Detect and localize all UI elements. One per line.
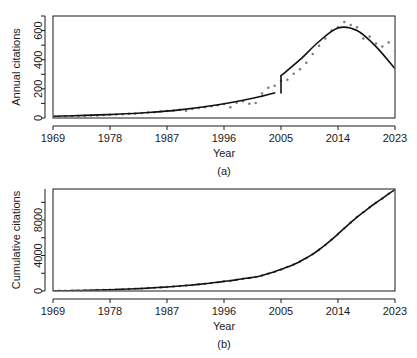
data-point: [375, 42, 378, 45]
x-tick-label: 1969: [41, 132, 65, 144]
data-layer: [52, 21, 397, 118]
x-tick-label: 1978: [98, 132, 122, 144]
panel-a-annual-citations: 19691978198719962005201420230200400600An…: [0, 0, 417, 179]
data-point: [299, 68, 302, 71]
data-point: [318, 44, 321, 47]
data-point: [387, 41, 390, 44]
data-point: [356, 26, 359, 29]
x-tick-label: 1978: [98, 305, 122, 317]
data-point: [273, 84, 276, 87]
plot-frame: [53, 16, 395, 118]
y-tick-label: 0: [32, 288, 44, 294]
x-tick-label: 2023: [383, 305, 407, 317]
x-tick-label: 1996: [212, 132, 236, 144]
cumulative-citations-plot: 1969197819871996200520142023040008000Cum…: [0, 179, 417, 358]
data-point: [229, 106, 232, 109]
data-point: [267, 86, 270, 89]
fitted-line-segment-2: [281, 27, 395, 76]
data-point: [248, 103, 251, 106]
x-tick-label: 1996: [212, 305, 236, 317]
x-tick-label: 2014: [326, 132, 350, 144]
x-tick-label: 1987: [155, 305, 179, 317]
x-axis-label: Year: [213, 147, 236, 159]
plot-frame: [53, 189, 395, 291]
x-axis-label: Year: [213, 320, 236, 332]
y-axis-label: Annual citations: [10, 28, 22, 106]
data-point: [286, 79, 289, 82]
data-point: [362, 37, 365, 40]
x-tick-label: 1987: [155, 132, 179, 144]
panel-b-cumulative-citations: 1969197819871996200520142023040008000Cum…: [0, 179, 417, 358]
y-tick-label: 4000: [32, 243, 44, 267]
x-tick-label: 2005: [269, 305, 293, 317]
x-tick-label: 2005: [269, 132, 293, 144]
panel-label: (b): [217, 338, 230, 350]
data-point: [292, 73, 295, 76]
y-axis-label: Cumulative citations: [10, 190, 22, 289]
y-tick-label: 8000: [32, 208, 44, 232]
data-point: [349, 24, 352, 27]
data-point: [305, 61, 308, 64]
y-tick-label: 0: [32, 115, 44, 121]
fitted-curve: [53, 190, 395, 291]
data-point: [381, 45, 384, 48]
y-tick-label: 600: [32, 21, 44, 39]
x-tick-label: 2014: [326, 305, 350, 317]
citations-figure: 19691978198719962005201420230200400600An…: [0, 0, 417, 358]
y-tick-label: 200: [32, 80, 44, 98]
data-point: [311, 53, 314, 56]
y-tick-label: 400: [32, 51, 44, 69]
data-point: [343, 21, 346, 24]
fitted-line-segment-1: [53, 93, 275, 116]
data-layer: [52, 188, 397, 292]
x-tick-label: 2023: [383, 132, 407, 144]
data-point: [368, 35, 371, 38]
data-point: [254, 102, 256, 105]
annual-citations-plot: 19691978198719962005201420230200400600An…: [0, 0, 417, 179]
data-point: [261, 92, 264, 95]
panel-label: (a): [217, 165, 230, 177]
x-tick-label: 1969: [41, 305, 65, 317]
